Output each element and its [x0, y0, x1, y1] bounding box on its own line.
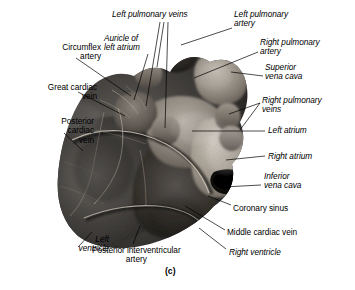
label-left-pulmonary-veins: Left pulmonary veins [112, 10, 188, 19]
label-auricle-of-left-atrium: Auricle of left atrium [104, 34, 140, 53]
label-middle-cardiac-vein: Middle cardiac vein [227, 228, 297, 237]
label-right-atrium: Right atrium [268, 152, 312, 161]
label-right-pulmonary-artery: Right pulmonary artery [260, 38, 320, 57]
label-right-ventricle: Right ventricle [229, 248, 281, 257]
label-inferior-vena-cava: Inferior vena cava [264, 172, 301, 191]
figure-caption: (c) [165, 266, 176, 276]
label-superior-vena-cava: Superior vena cava [265, 63, 302, 82]
label-posterior-cardiac-vein: Posterior cardiac vein [61, 117, 94, 145]
label-posterior-interventricular-artery: Posterior interventricular artery [92, 246, 181, 265]
anatomy-figure: Left pulmonary veinsLeft pulmonary arter… [0, 0, 355, 290]
label-coronary-sinus: Coronary sinus [233, 204, 288, 213]
label-left-pulmonary-artery: Left pulmonary artery [234, 10, 288, 29]
label-circumflex-artery: Circumflex artery [62, 43, 101, 62]
label-great-cardiac-vein: Great cardiac vein [48, 83, 97, 102]
label-left-atrium: Left atrium [268, 126, 307, 135]
label-right-pulmonary-veins: Right pulmonary veins [262, 96, 322, 115]
